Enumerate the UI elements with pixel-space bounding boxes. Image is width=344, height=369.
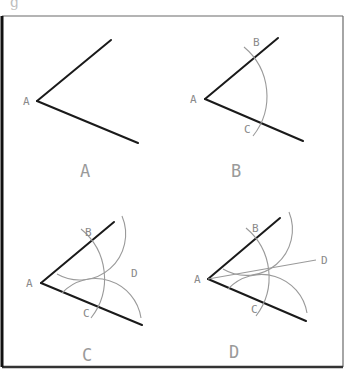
vertex-label: A (23, 95, 30, 108)
point-c-label: C (251, 303, 258, 316)
point-d-label: D (321, 254, 328, 267)
panel-caption: B (231, 161, 241, 181)
vertex-label: A (190, 93, 197, 106)
panel-c: A B C D C (26, 216, 142, 365)
point-b-label: B (253, 36, 260, 49)
panel-b: A B C B (190, 36, 303, 181)
vertex-label: A (26, 277, 33, 290)
point-b-label: B (85, 226, 92, 239)
angle-bisection-diagram: g A A A B C B A B C D C (0, 0, 344, 369)
cropped-caption-fragment: g (10, 0, 19, 10)
panel-d: A B C D D (194, 212, 328, 362)
panel-caption: A (80, 161, 90, 181)
vertex-label: A (194, 273, 201, 286)
upper-arm (37, 40, 111, 101)
lower-arm (41, 283, 142, 325)
point-b-label: B (252, 222, 259, 235)
point-c-label: C (83, 307, 90, 320)
point-d-label: D (131, 267, 138, 280)
panel-a: A A (23, 40, 138, 181)
lower-arm (37, 101, 138, 143)
panel-caption: D (229, 342, 239, 362)
panel-caption: C (82, 345, 92, 365)
point-c-label: C (244, 123, 251, 136)
